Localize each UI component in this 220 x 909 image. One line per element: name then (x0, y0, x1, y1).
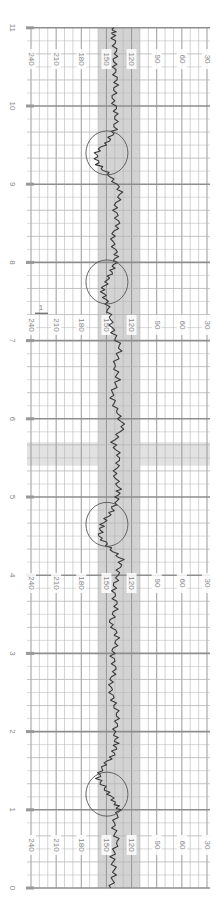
bpm-tick-label: 210 (52, 838, 61, 852)
minute-marker (26, 887, 34, 890)
bpm-tick-label: 210 (52, 318, 61, 332)
bpm-tick-label: 240 (27, 838, 36, 852)
time-tick-label: 5 (8, 495, 17, 500)
bpm-tick-label: 180 (77, 52, 86, 66)
bpm-tick-label: 30 (203, 321, 212, 330)
time-tick-label: 8 (8, 260, 17, 265)
minute-marker (26, 26, 34, 29)
time-tick-label: 9 (8, 182, 17, 187)
bpm-tick-label: 90 (153, 579, 162, 588)
minute-marker (26, 183, 34, 186)
bpm-tick-label: 150 (102, 576, 111, 590)
bpm-tick-label: 120 (127, 52, 136, 66)
bpm-tick-label: 120 (127, 838, 136, 852)
bpm-tick-label: 180 (77, 838, 86, 852)
bpm-tick-label: 210 (52, 52, 61, 66)
bpm-tick-label: 30 (203, 579, 212, 588)
bpm-tick-label: 90 (153, 321, 162, 330)
minute-marker (26, 496, 34, 499)
minute-marker (26, 808, 34, 811)
bpm-tick-label: 90 (153, 55, 162, 64)
bpm-tick-label: 240 (27, 52, 36, 66)
bpm-tick-label: 60 (178, 579, 187, 588)
bpm-tick-label: 240 (27, 318, 36, 332)
bpm-tick-label: 120 (127, 576, 136, 590)
bpm-tick-label: 120 (127, 318, 136, 332)
minute-marker (26, 652, 34, 655)
time-tick-label: 3 (8, 651, 17, 656)
bpm-tick-label: 210 (52, 576, 61, 590)
minute-marker (26, 105, 34, 108)
bpm-tick-label: 150 (102, 52, 111, 66)
time-tick-label: 7 (8, 338, 17, 343)
minute-marker (26, 261, 34, 264)
bpm-tick-label: 60 (178, 841, 187, 850)
time-tick-label: 10 (8, 102, 17, 111)
time-tick-label: 0 (8, 886, 17, 891)
minute-marker (26, 339, 34, 342)
bpm-tick-label: 60 (178, 55, 187, 64)
event-marker: 1 (35, 303, 48, 313)
bpm-tick-label: 180 (77, 318, 86, 332)
bpm-tick-label: 90 (153, 841, 162, 850)
time-tick-label: 6 (8, 417, 17, 422)
time-tick-label: 11 (8, 24, 17, 33)
bpm-tick-label: 30 (203, 55, 212, 64)
bpm-tick-label: 30 (203, 841, 212, 850)
time-tick-label: 1 (8, 808, 17, 813)
ctg-strip-chart: 01234567891011 2402101801501209060302402… (0, 0, 220, 909)
bpm-tick-label: 150 (102, 838, 111, 852)
bpm-tick-label: 180 (77, 576, 86, 590)
marker-label: 1 (39, 303, 44, 312)
minute-marker (26, 417, 34, 420)
time-tick-label: 2 (8, 729, 17, 734)
time-tick-label: 4 (8, 573, 17, 578)
bpm-tick-label: 240 (27, 576, 36, 590)
minute-marker (26, 730, 34, 733)
bpm-tick-label: 60 (178, 321, 187, 330)
